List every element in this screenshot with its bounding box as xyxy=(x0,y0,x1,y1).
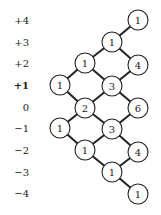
node: 4 xyxy=(128,55,148,75)
row-label: +1 xyxy=(14,80,29,91)
row-label: +3 xyxy=(14,37,29,48)
node: 3 xyxy=(102,76,122,96)
node-value: 2 xyxy=(82,103,88,114)
node-value: 1 xyxy=(109,37,115,48)
node-value: 1 xyxy=(109,167,115,178)
node: 1 xyxy=(102,32,122,52)
row-label: −1 xyxy=(14,123,29,134)
row-labels: +4+3+2+10−1−2−3−4 xyxy=(14,15,29,199)
node-value: 1 xyxy=(82,58,88,69)
node: 1 xyxy=(75,53,95,73)
node-value: 1 xyxy=(57,123,63,134)
node-value: 1 xyxy=(135,189,141,200)
nodes: 11141326131411 xyxy=(50,10,148,204)
node-value: 3 xyxy=(109,124,115,135)
node-value: 1 xyxy=(135,15,141,26)
row-label: +4 xyxy=(14,15,29,26)
node: 3 xyxy=(102,119,122,139)
node: 1 xyxy=(102,162,122,182)
node: 1 xyxy=(128,10,148,30)
node: 4 xyxy=(128,142,148,162)
node: 6 xyxy=(128,98,148,118)
row-label: +2 xyxy=(14,58,29,69)
node-value: 1 xyxy=(57,80,63,91)
node-value: 6 xyxy=(135,103,141,114)
row-label: −2 xyxy=(14,145,29,156)
node-value: 1 xyxy=(82,145,88,156)
row-label: −3 xyxy=(14,167,29,178)
node: 2 xyxy=(75,98,95,118)
node: 1 xyxy=(75,140,95,160)
node-value: 4 xyxy=(135,147,141,158)
node-value: 4 xyxy=(135,60,141,71)
node: 1 xyxy=(50,118,70,138)
row-label: 0 xyxy=(23,102,29,113)
node: 1 xyxy=(128,184,148,204)
node: 1 xyxy=(50,75,70,95)
node-value: 3 xyxy=(109,81,115,92)
path-count-diagram: +4+3+2+10−1−2−3−4 11141326131411 xyxy=(0,0,161,215)
edges xyxy=(60,20,138,194)
row-label: −4 xyxy=(14,188,29,199)
